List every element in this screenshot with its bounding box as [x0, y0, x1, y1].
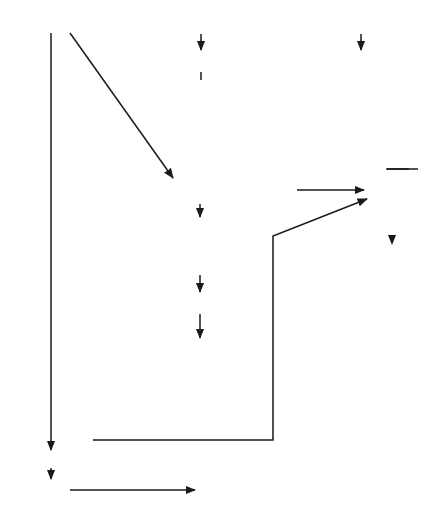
flowchart-connectors	[0, 0, 429, 518]
